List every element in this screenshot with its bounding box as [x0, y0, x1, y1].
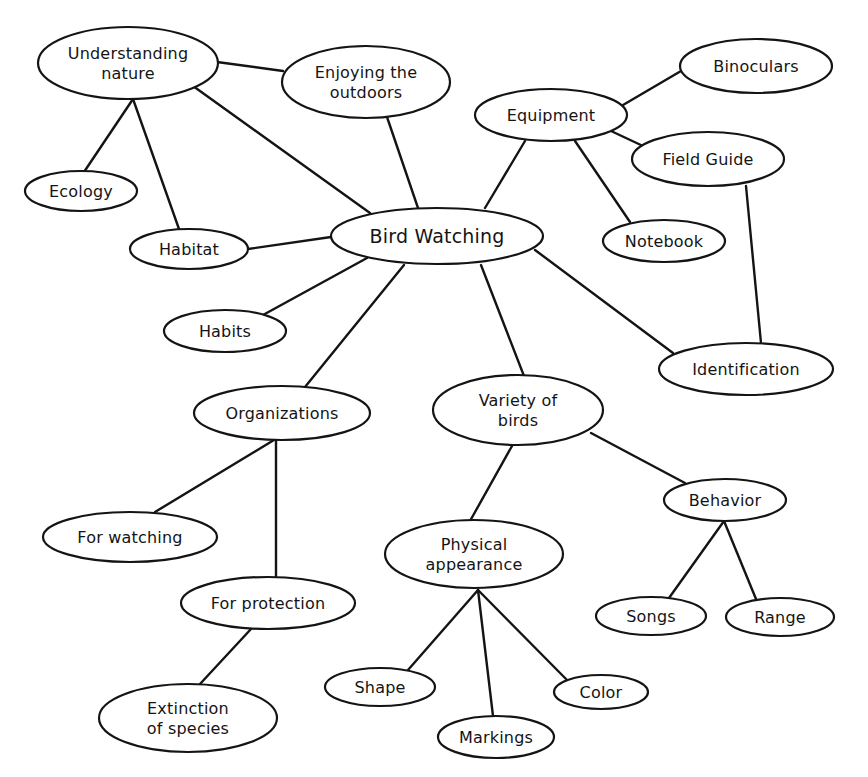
- node-range[interactable]: Range: [726, 598, 834, 636]
- edge-for-protection-to-extinction-of-species: [200, 629, 251, 684]
- node-label: Shape: [354, 678, 405, 697]
- node-label: Physical: [441, 535, 508, 554]
- node-bird-watching[interactable]: Bird Watching: [331, 208, 543, 264]
- node-ecology[interactable]: Ecology: [25, 171, 137, 211]
- node-label: Enjoying the: [315, 63, 417, 82]
- node-label: Organizations: [225, 404, 338, 423]
- node-equipment[interactable]: Equipment: [475, 89, 627, 141]
- node-label: For protection: [211, 594, 326, 613]
- node-label: Ecology: [49, 182, 113, 201]
- node-label: Behavior: [689, 491, 762, 510]
- node-habitat[interactable]: Habitat: [130, 229, 248, 269]
- node-label: nature: [101, 64, 155, 83]
- node-color[interactable]: Color: [554, 675, 648, 709]
- node-markings[interactable]: Markings: [438, 716, 554, 758]
- node-for-watching[interactable]: For watching: [43, 512, 217, 562]
- edge-behavior-to-range: [724, 521, 756, 599]
- node-label: Variety of: [479, 391, 558, 410]
- node-label: Equipment: [507, 106, 596, 125]
- mind-map-canvas: Bird WatchingUnderstandingnatureEnjoying…: [0, 0, 868, 777]
- node-identification[interactable]: Identification: [659, 343, 833, 395]
- node-enjoying-outdoors[interactable]: Enjoying theoutdoors: [282, 46, 450, 118]
- node-physical-appearance[interactable]: Physicalappearance: [385, 520, 563, 588]
- edge-field-guide-to-identification: [746, 186, 761, 343]
- node-notebook[interactable]: Notebook: [603, 220, 725, 262]
- node-label: Habitat: [159, 240, 219, 259]
- node-field-guide[interactable]: Field Guide: [632, 132, 784, 186]
- node-label: Extinction: [147, 699, 229, 718]
- node-habits[interactable]: Habits: [164, 310, 286, 352]
- edge-bird-watching-to-identification: [535, 250, 673, 353]
- edge-equipment-to-binoculars: [623, 71, 681, 105]
- node-label: Binoculars: [713, 57, 798, 76]
- node-organizations[interactable]: Organizations: [194, 386, 370, 440]
- edge-understanding-nature-to-enjoying-outdoors: [217, 62, 283, 71]
- node-label: appearance: [426, 555, 523, 574]
- node-label: of species: [147, 719, 229, 738]
- edge-physical-appearance-to-markings: [478, 590, 493, 716]
- node-understanding-nature[interactable]: Understandingnature: [38, 27, 218, 99]
- edge-understanding-nature-to-ecology: [84, 99, 133, 172]
- edge-equipment-to-notebook: [575, 141, 630, 222]
- edge-organizations-to-for-watching: [155, 440, 274, 512]
- edge-equipment-to-field-guide: [611, 131, 643, 146]
- edge-behavior-to-songs: [669, 521, 724, 598]
- node-label: Field Guide: [662, 150, 753, 169]
- node-extinction-of-species[interactable]: Extinctionof species: [99, 684, 277, 752]
- edge-enjoying-outdoors-to-bird-watching: [387, 117, 418, 208]
- edge-physical-appearance-to-color: [478, 590, 568, 681]
- node-label: Identification: [692, 360, 800, 379]
- edge-understanding-nature-to-habitat: [133, 99, 179, 229]
- node-shape[interactable]: Shape: [325, 668, 435, 706]
- node-label: Habits: [199, 322, 251, 341]
- edge-bird-watching-to-variety-of-birds: [481, 265, 524, 376]
- node-songs[interactable]: Songs: [596, 597, 706, 635]
- node-for-protection[interactable]: For protection: [181, 577, 355, 629]
- node-label: Understanding: [68, 44, 188, 63]
- node-label: Songs: [626, 607, 676, 626]
- node-binoculars[interactable]: Binoculars: [680, 39, 832, 93]
- node-label: Bird Watching: [369, 225, 504, 247]
- edge-variety-of-birds-to-behavior: [591, 433, 685, 483]
- edge-bird-watching-to-habits: [263, 258, 367, 315]
- edge-bird-watching-to-equipment: [485, 141, 525, 208]
- node-behavior[interactable]: Behavior: [664, 479, 786, 521]
- node-variety-of-birds[interactable]: Variety ofbirds: [433, 375, 603, 445]
- node-label: Range: [754, 608, 806, 627]
- node-label: For watching: [77, 528, 182, 547]
- node-label: Markings: [459, 728, 533, 747]
- node-label: outdoors: [330, 83, 402, 102]
- node-label: Color: [580, 683, 623, 702]
- edge-variety-of-birds-to-physical-appearance: [470, 446, 512, 521]
- edge-physical-appearance-to-shape: [408, 590, 478, 670]
- edge-bird-watching-to-habitat: [248, 237, 331, 249]
- node-label: Notebook: [625, 232, 704, 251]
- node-label: birds: [498, 411, 538, 430]
